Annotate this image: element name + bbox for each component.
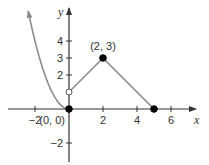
piecewise-function-graph: −2246−2234 x y (0, 0)(2, 3) — [0, 0, 209, 165]
x-tick-label: 4 — [134, 114, 140, 126]
y-tick-label: −2 — [50, 137, 63, 149]
y-axis-label: y — [57, 5, 64, 19]
x-axis-label: x — [193, 113, 200, 127]
y-tick-label: 3 — [57, 52, 63, 64]
open-point — [66, 89, 72, 95]
series-lines — [28, 11, 154, 109]
filled-point — [151, 106, 158, 113]
segment-2-line — [103, 58, 154, 109]
y-tick-label: 4 — [57, 35, 63, 47]
filled-point — [100, 55, 107, 62]
data-points — [66, 55, 158, 113]
axis-tick-labels: −2246−2234 — [29, 35, 174, 149]
segment-1-line — [69, 58, 103, 92]
x-tick-label: 6 — [168, 114, 174, 126]
y-tick-label: 2 — [57, 69, 63, 81]
point-label: (0, 0) — [39, 114, 65, 126]
point-label: (2, 3) — [90, 40, 116, 52]
axes — [8, 8, 196, 162]
filled-point — [66, 106, 73, 113]
x-tick-label: 2 — [100, 114, 106, 126]
